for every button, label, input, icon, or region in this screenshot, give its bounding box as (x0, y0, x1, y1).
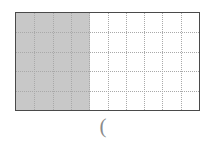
gridline-horizontal (16, 52, 199, 53)
grid-cell (53, 52, 72, 72)
grid-cell (71, 91, 90, 110)
grid-cell (34, 52, 53, 72)
grid-cell (34, 71, 53, 91)
grid-cell (71, 13, 90, 33)
gridline-vertical (71, 13, 72, 110)
parenthesis-mark: ( (95, 114, 111, 138)
gridline-vertical (144, 13, 145, 110)
grid-cell (53, 32, 72, 52)
gridline-horizontal (16, 91, 199, 92)
grid-cell (34, 32, 53, 52)
gridline-vertical (89, 13, 90, 110)
grid-cell (34, 13, 53, 33)
grid-cell (16, 52, 35, 72)
figure-root: ( (0, 0, 210, 142)
grid-cell (71, 71, 90, 91)
gridline-vertical (34, 13, 35, 110)
grid-cell (16, 71, 35, 91)
grid-cell (16, 13, 35, 33)
gridline-vertical (181, 13, 182, 110)
gridline-vertical (53, 13, 54, 110)
grid-cell (53, 71, 72, 91)
grid-rectangle (15, 12, 200, 111)
gridline-vertical (108, 13, 109, 110)
grid-inner (16, 13, 199, 110)
grid-cell (53, 13, 72, 33)
grid-cell (16, 91, 35, 110)
gridline-horizontal (16, 71, 199, 72)
grid-cell (71, 52, 90, 72)
grid-cell (34, 91, 53, 110)
gridline-vertical (126, 13, 127, 110)
grid-cell (53, 91, 72, 110)
gridline-vertical (162, 13, 163, 110)
grid-cell (71, 32, 90, 52)
grid-cell (16, 32, 35, 52)
gridline-horizontal (16, 32, 199, 33)
